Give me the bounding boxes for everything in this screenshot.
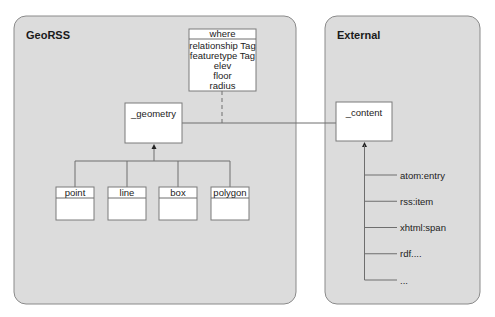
content-label: _content — [345, 107, 383, 118]
where-attribute: radius — [210, 80, 236, 91]
content-subtype-label: xhtml:span — [400, 222, 446, 233]
geometry-subtype-box-box: box — [159, 187, 197, 220]
external-panel-title: External — [337, 29, 380, 41]
content-subtype-label: rdf.... — [400, 248, 422, 259]
content-subtype-label: rss:item — [400, 196, 433, 207]
diagram-canvas: GeoRSS External where relationship Tagfe… — [0, 0, 495, 317]
geometry-subtype-label: box — [170, 187, 186, 198]
geometry-label: _geometry — [130, 108, 176, 119]
geometry-subtype-box-line: line — [108, 187, 146, 220]
geometry-subtype-label: line — [120, 187, 135, 198]
geometry-subtype-label: point — [65, 187, 86, 198]
where-class-box: where relationship Tagfeaturetype Tagele… — [189, 28, 256, 91]
geometry-subtype-label: polygon — [213, 187, 246, 198]
content-class-box: _content — [336, 102, 392, 141]
geometry-class-box: _geometry — [125, 103, 182, 143]
where-header: where — [209, 28, 236, 39]
geometry-subtype-box-polygon: polygon — [211, 187, 249, 220]
georss-panel-title: GeoRSS — [26, 29, 70, 41]
content-subtype-label: atom:entry — [400, 170, 445, 181]
content-subtype-label: ... — [400, 275, 408, 286]
geometry-subtype-box-point: point — [56, 187, 94, 220]
external-panel — [325, 16, 480, 304]
